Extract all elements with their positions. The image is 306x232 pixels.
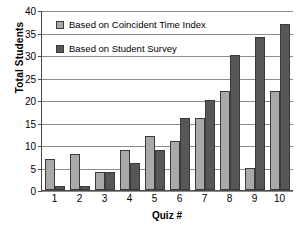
legend-item-student-survey: Based on Student Survey [56, 43, 206, 54]
x-tick-label: 2 [67, 193, 92, 204]
gridline [42, 191, 293, 192]
bar [255, 37, 265, 190]
x-tick: 6 [167, 193, 192, 204]
bar [230, 55, 240, 190]
y-tick-mark [38, 191, 42, 192]
x-tick-label: 10 [267, 193, 292, 204]
x-tick-label: 9 [242, 193, 267, 204]
y-axis-title: Total Students [14, 3, 25, 113]
bar [45, 159, 55, 191]
bar-group [242, 11, 267, 190]
bar [95, 172, 105, 190]
bar [155, 150, 165, 191]
x-tick: 2 [67, 193, 92, 204]
bar [220, 91, 230, 190]
x-tick: 8 [217, 193, 242, 204]
legend-label: Based on Student Survey [69, 43, 177, 54]
x-tick: 9 [242, 193, 267, 204]
y-tick-label: 20 [25, 96, 36, 107]
bar [130, 163, 140, 190]
bar [145, 136, 155, 190]
bar [105, 172, 115, 190]
x-tick: 3 [92, 193, 117, 204]
x-tick: 4 [117, 193, 142, 204]
bar-chart: Total Students 0510152025303540 12345678… [0, 0, 306, 232]
x-tick-label: 3 [92, 193, 117, 204]
y-tick-label: 10 [25, 141, 36, 152]
legend-swatch-icon [56, 21, 64, 29]
y-tick-label: 0 [30, 186, 36, 197]
x-tick-label: 5 [142, 193, 167, 204]
x-tick: 7 [192, 193, 217, 204]
y-tick-label: 5 [30, 163, 36, 174]
y-tick-label: 40 [25, 6, 36, 17]
x-tick: 5 [142, 193, 167, 204]
x-axis-title: Quiz # [41, 210, 293, 221]
bar [120, 150, 130, 191]
x-tick-label: 8 [217, 193, 242, 204]
chart-legend: Based on Coincident Time Index Based on … [56, 19, 206, 67]
x-tick: 1 [42, 193, 67, 204]
y-tick-label: 25 [25, 73, 36, 84]
bar [270, 91, 280, 190]
x-tick-label: 6 [167, 193, 192, 204]
legend-swatch-icon [56, 45, 64, 53]
legend-label: Based on Coincident Time Index [69, 19, 206, 30]
bar [195, 118, 205, 190]
y-tick-label: 35 [25, 28, 36, 39]
y-tick-label: 30 [25, 51, 36, 62]
bar [55, 186, 65, 191]
bar [180, 118, 190, 190]
y-tick-label: 15 [25, 118, 36, 129]
bar [245, 168, 255, 191]
x-tick-label: 7 [192, 193, 217, 204]
bar [170, 141, 180, 191]
bar [280, 24, 290, 191]
bar-group [217, 11, 242, 190]
x-tick: 10 [267, 193, 292, 204]
bar [80, 186, 90, 191]
legend-item-coincident-time-index: Based on Coincident Time Index [56, 19, 206, 30]
x-tick-label: 1 [42, 193, 67, 204]
bar [205, 100, 215, 190]
x-axis-ticks: 12345678910 [41, 193, 293, 204]
x-tick-label: 4 [117, 193, 142, 204]
bar-group [267, 11, 292, 190]
bar [70, 154, 80, 190]
